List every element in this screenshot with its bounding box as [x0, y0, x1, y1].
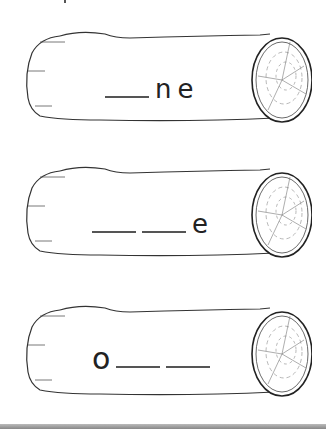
- log-1: n e: [20, 28, 312, 128]
- log-3: o: [20, 302, 312, 402]
- letter-blank[interactable]: [116, 366, 160, 368]
- top-mark: [64, 0, 66, 3]
- letter-blank[interactable]: [105, 96, 149, 98]
- word-prompt-2: e: [92, 211, 208, 237]
- given-letter: e: [192, 211, 208, 237]
- given-letter: o: [92, 346, 110, 372]
- letter-blank[interactable]: [92, 231, 136, 233]
- word-prompt-1: n e: [105, 76, 193, 102]
- bottom-edge: [0, 424, 326, 429]
- word-prompt-3: o: [92, 346, 210, 372]
- letter-blank[interactable]: [166, 366, 210, 368]
- given-letter: n: [155, 76, 171, 102]
- letter-blank[interactable]: [142, 231, 186, 233]
- given-letter: e: [177, 76, 193, 102]
- log-2: e: [20, 163, 312, 263]
